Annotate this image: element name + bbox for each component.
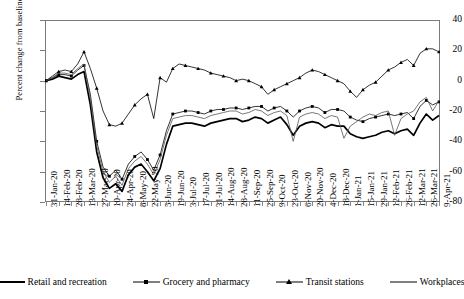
x-tick-mark bbox=[306, 202, 307, 205]
series-marker bbox=[184, 110, 187, 113]
x-tick-mark bbox=[338, 202, 339, 206]
x-tick-mark bbox=[160, 202, 161, 206]
x-tick-mark bbox=[192, 202, 193, 205]
series-marker bbox=[95, 86, 99, 89]
series-marker bbox=[133, 155, 136, 158]
x-tick-mark bbox=[141, 202, 142, 205]
legend-item-grocery-and-pharmacy[interactable]: Grocery and pharmacy bbox=[133, 277, 250, 287]
legend-item-retail-and-recreation[interactable]: Retail and recreation bbox=[0, 277, 107, 287]
x-tick-label: 26-Feb-21 bbox=[405, 170, 414, 208]
x-tick-mark bbox=[223, 202, 224, 206]
series-marker bbox=[412, 117, 415, 120]
x-tick-mark bbox=[46, 202, 47, 206]
x-tick-mark bbox=[319, 202, 320, 205]
x-tick-label: 19-Jun-20 bbox=[177, 171, 186, 208]
x-tick-mark bbox=[128, 202, 129, 205]
x-tick-mark bbox=[147, 202, 148, 206]
x-tick-label: 14-Feb-20 bbox=[63, 170, 72, 208]
x-tick-mark bbox=[407, 202, 408, 205]
x-tick-mark bbox=[274, 202, 275, 206]
x-tick-mark bbox=[90, 202, 91, 205]
x-tick-label: 3-Jul-20 bbox=[189, 177, 198, 207]
x-tick-mark bbox=[312, 202, 313, 206]
x-tick-label: 9-Oct-20 bbox=[278, 175, 287, 208]
x-tick-mark bbox=[331, 202, 332, 205]
x-tick-mark bbox=[420, 202, 421, 205]
x-tick-mark bbox=[363, 202, 364, 206]
x-tick-mark bbox=[344, 202, 345, 205]
series-marker bbox=[146, 158, 149, 161]
series-marker bbox=[197, 111, 200, 114]
series-marker bbox=[158, 76, 162, 79]
series-marker bbox=[310, 68, 314, 71]
x-tick-mark bbox=[236, 202, 237, 206]
series-marker bbox=[247, 107, 250, 110]
series-marker bbox=[222, 108, 225, 111]
x-tick-mark bbox=[388, 202, 389, 206]
legend-item-workplaces[interactable]: Workplaces bbox=[390, 277, 464, 287]
x-tick-label: 12-Feb-21 bbox=[392, 170, 401, 208]
x-tick-mark bbox=[357, 202, 358, 205]
x-tick-mark bbox=[439, 202, 440, 206]
series-marker bbox=[70, 75, 73, 78]
x-tick-mark bbox=[179, 202, 180, 205]
x-tick-mark bbox=[116, 202, 117, 205]
x-tick-mark bbox=[243, 202, 244, 205]
chart-legend: Retail and recreationGrocery and pharmac… bbox=[0, 272, 462, 292]
x-tick-mark bbox=[350, 202, 351, 206]
legend-swatch-icon bbox=[0, 277, 25, 287]
legend-label: Grocery and pharmacy bbox=[163, 277, 250, 287]
series-marker bbox=[311, 105, 314, 108]
x-tick-mark bbox=[262, 202, 263, 206]
x-tick-mark bbox=[71, 202, 72, 206]
x-tick-mark bbox=[97, 202, 98, 206]
x-tick-mark bbox=[376, 202, 377, 206]
legend-label: Workplaces bbox=[420, 277, 464, 287]
x-tick-mark bbox=[249, 202, 250, 206]
series-marker bbox=[362, 120, 365, 123]
x-tick-mark bbox=[255, 202, 256, 205]
legend-label: Transit stations bbox=[306, 277, 364, 287]
x-tick-mark bbox=[287, 202, 288, 206]
x-tick-mark bbox=[198, 202, 199, 206]
y-tick-mark bbox=[40, 202, 45, 203]
series-line bbox=[46, 49, 439, 126]
series-marker bbox=[324, 111, 327, 114]
x-tick-label: 28-Aug-20 bbox=[240, 168, 249, 208]
x-tick-mark bbox=[211, 202, 212, 206]
x-tick-mark bbox=[395, 202, 396, 205]
x-tick-mark bbox=[78, 202, 79, 205]
series-marker bbox=[285, 110, 288, 113]
x-tick-label: 31-Jul-20 bbox=[215, 173, 224, 208]
x-tick-mark bbox=[293, 202, 294, 205]
x-tick-mark bbox=[433, 202, 434, 205]
x-tick-label: 4-Dec-20 bbox=[329, 173, 338, 207]
x-tick-mark bbox=[325, 202, 326, 206]
x-tick-mark bbox=[382, 202, 383, 205]
x-tick-label: 8-May-20 bbox=[139, 171, 148, 207]
x-tick-label: 10-Apr-20 bbox=[113, 169, 122, 207]
x-tick-label: 22-May-20 bbox=[151, 167, 160, 208]
legend-label: Retail and recreation bbox=[28, 277, 107, 287]
x-tick-mark bbox=[135, 202, 136, 206]
x-tick-mark bbox=[204, 202, 205, 205]
x-tick-mark bbox=[166, 202, 167, 205]
x-tick-mark bbox=[401, 202, 402, 206]
x-tick-label: 28-Feb-20 bbox=[75, 170, 84, 208]
legend-swatch-icon bbox=[276, 277, 303, 287]
x-tick-mark bbox=[230, 202, 231, 205]
x-tick-label: 15-Jan-21 bbox=[367, 171, 376, 207]
x-tick-mark bbox=[52, 202, 53, 205]
x-tick-mark bbox=[268, 202, 269, 205]
legend-item-transit-stations[interactable]: Transit stations bbox=[276, 277, 364, 287]
x-tick-mark bbox=[122, 202, 123, 206]
series-marker bbox=[374, 116, 377, 119]
series-marker bbox=[437, 50, 440, 53]
x-tick-mark bbox=[103, 202, 104, 205]
x-tick-mark bbox=[65, 202, 66, 205]
series-marker bbox=[107, 123, 111, 126]
x-tick-label: 1-Jan-21 bbox=[354, 176, 363, 208]
x-tick-mark bbox=[426, 202, 427, 206]
series-marker bbox=[260, 105, 263, 108]
